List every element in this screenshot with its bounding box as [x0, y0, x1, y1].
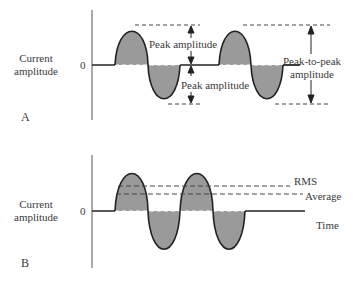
average-label: Average [305, 190, 341, 203]
panel-a-letter: A [21, 111, 30, 124]
panel-b-y-label: Current amplitude [14, 198, 58, 224]
peak-amplitude-lower-label: Peak amplitude [181, 79, 249, 92]
time-axis-label: Time [316, 219, 339, 232]
peak-amplitude-upper-label: Peak amplitude [149, 38, 217, 51]
panel-a-zero-label: 0 [80, 59, 86, 72]
panel-b-y-label-line1: Current [14, 198, 58, 211]
panel-b-y-label-line2: amplitude [14, 211, 58, 224]
rms-label: RMS [294, 175, 317, 188]
panel-a-y-label: Current amplitude [14, 52, 58, 78]
panel-b-letter: B [21, 257, 29, 270]
panel-a-y-label-line2: amplitude [14, 65, 58, 78]
peak-to-peak-label-line2: amplitude [283, 68, 341, 81]
panel-b-zero-label: 0 [80, 205, 86, 218]
peak-to-peak-label: Peak-to-peak amplitude [283, 55, 341, 81]
panel-a-y-label-line1: Current [14, 52, 58, 65]
peak-to-peak-label-line1: Peak-to-peak [283, 55, 341, 68]
panel-b-graph [92, 155, 305, 268]
